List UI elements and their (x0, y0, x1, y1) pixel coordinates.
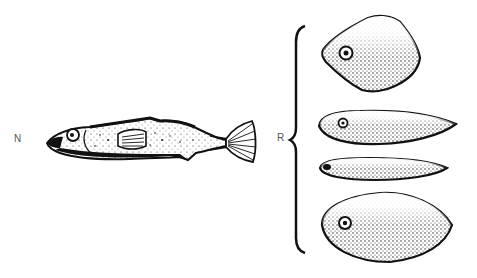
brace (290, 26, 305, 253)
crude-model-2 (319, 111, 456, 144)
figure-canvas (0, 0, 477, 278)
pupil (344, 51, 349, 56)
crude-model-1 (322, 16, 420, 91)
pupil (70, 133, 74, 137)
naturalistic-fish (47, 118, 256, 162)
pupil (341, 121, 344, 124)
crude-model-4 (322, 193, 452, 262)
pupil (343, 221, 347, 225)
dark-spot (323, 164, 331, 170)
crude-model-3 (320, 158, 447, 180)
